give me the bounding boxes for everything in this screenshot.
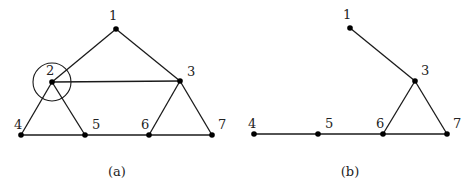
- node-5: [315, 131, 321, 137]
- edge-1-3: [116, 29, 180, 81]
- node-6: [380, 131, 386, 137]
- node-2: [49, 79, 55, 85]
- node-7: [209, 132, 215, 138]
- node-6: [146, 132, 152, 138]
- node-label-1: 1: [109, 8, 117, 23]
- edge-2-5: [52, 82, 85, 135]
- node-4: [18, 132, 24, 138]
- node-3: [177, 78, 183, 84]
- figure-a-graph: 1234567: [14, 8, 226, 138]
- node-1: [113, 26, 119, 32]
- edge-3-6: [149, 81, 180, 135]
- edge-3-7: [415, 81, 447, 134]
- node-label-7: 7: [218, 117, 226, 132]
- edge-3-7: [180, 81, 212, 135]
- figure-b-caption: (b): [341, 164, 359, 179]
- edge-3-6: [383, 81, 415, 134]
- edge-1-2: [52, 29, 116, 82]
- node-label-6: 6: [141, 117, 149, 132]
- node-7: [444, 131, 450, 137]
- figure-b-graph: 134567: [248, 7, 461, 137]
- node-3: [412, 78, 418, 84]
- node-label-5: 5: [325, 116, 333, 131]
- node-label-4: 4: [14, 117, 22, 132]
- graph-diagram: 1234567 134567 (a) (b): [0, 0, 470, 184]
- node-label-4: 4: [248, 116, 256, 131]
- node-label-5: 5: [92, 117, 100, 132]
- node-label-2: 2: [46, 63, 54, 78]
- node-label-3: 3: [421, 63, 429, 78]
- node-4: [251, 131, 257, 137]
- node-label-1: 1: [343, 7, 351, 22]
- edge-1-3: [350, 28, 415, 81]
- figure-a-caption: (a): [108, 164, 126, 179]
- edge-2-4: [21, 82, 52, 135]
- node-5: [82, 132, 88, 138]
- node-label-7: 7: [453, 116, 461, 131]
- node-1: [347, 25, 353, 31]
- node-label-6: 6: [376, 116, 384, 131]
- node-label-3: 3: [187, 64, 195, 79]
